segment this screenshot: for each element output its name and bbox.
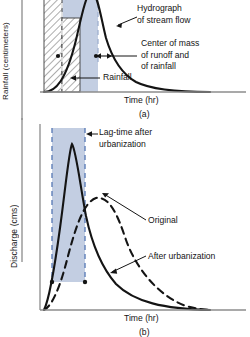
- panel-a: Rainfall (centimeters): [0, 0, 250, 120]
- annotation-line: urbanization: [99, 139, 152, 151]
- panel-b-caption: (b): [139, 327, 150, 337]
- annotation-line: of runoff and: [141, 50, 199, 62]
- panel-a-rainfall-bar-1: [44, 0, 62, 92]
- panel-b-leader-after-urbanization: [110, 256, 146, 274]
- panel-b: Discharge (cms): [0, 112, 250, 334]
- annotation-line: Hydrograph: [137, 3, 191, 15]
- panel-a-annotation-hydrograph: Hydrograph of stream flow: [137, 3, 191, 26]
- panel-b-leader-lag-time: [86, 131, 98, 136]
- annotation-line: Rainfall: [103, 72, 132, 84]
- panel-b-center-of-mass-after-dot: [83, 280, 87, 284]
- panel-a-x-axis-label: Time (hr): [124, 95, 159, 105]
- panel-b-leader-original: [102, 193, 146, 220]
- panel-a-center-of-mass-rainfall-dot: [56, 54, 60, 58]
- annotation-line: of stream flow: [137, 15, 191, 27]
- annotation-line: of rainfall: [141, 61, 199, 73]
- panel-b-annotation-lag-time: Lag-time after urbanization: [99, 127, 152, 150]
- panel-b-center-of-mass-before-dot: [50, 280, 54, 284]
- annotation-line: Lag-time after: [99, 127, 152, 139]
- panel-a-annotation-rainfall: Rainfall: [103, 72, 132, 84]
- panel-b-annotation-after-urbanization: After urbanization: [148, 251, 215, 263]
- annotation-line: Center of mass: [141, 38, 199, 50]
- panel-a-leader-hydrograph: [116, 17, 137, 28]
- panel-b-lag-band: [52, 128, 85, 282]
- annotation-line: After urbanization: [148, 251, 215, 263]
- panel-b-annotation-original: Original: [148, 215, 178, 227]
- panel-b-x-axis-label: Time (hr): [124, 313, 159, 323]
- annotation-line: Original: [148, 215, 178, 227]
- panel-a-annotation-center-of-mass: Center of mass of runoff and of rainfall: [141, 38, 199, 73]
